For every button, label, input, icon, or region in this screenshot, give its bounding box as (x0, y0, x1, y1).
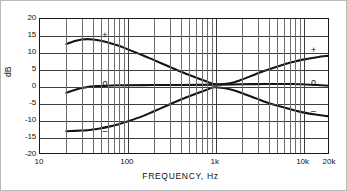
y-axis-tick-label: -15 (2, 133, 36, 141)
curve-annotation-plus-right: + (311, 45, 316, 54)
x-axis-tick-label: 20k (323, 158, 336, 166)
x-axis-tick-label: 1k (210, 158, 218, 166)
x-axis-tick-label: 10 (35, 158, 44, 166)
x-axis-title: FREQUENCY, Hz (1, 171, 346, 181)
y-axis-tick-label: 10 (2, 48, 36, 56)
gridline-vertical-minor (181, 19, 182, 153)
x-axis-tick-label: 10k (296, 158, 309, 166)
gridline-vertical-major (216, 19, 217, 153)
gridline-vertical-major (128, 19, 129, 153)
gridline-vertical-minor (93, 19, 94, 153)
curve-annotation-plus-left: + (102, 31, 107, 40)
x-axis-tick-label: 100 (120, 158, 133, 166)
gridline-vertical-minor (82, 19, 83, 153)
curve-annotation-minus-left: – (102, 127, 107, 136)
y-axis-tick-label: 5 (2, 65, 36, 73)
gridline-vertical-minor (277, 19, 278, 153)
gridline-vertical-minor (170, 19, 171, 153)
y-axis-tick-label: -10 (2, 116, 36, 124)
gridline-vertical-minor (300, 19, 301, 153)
curve-annotation-zero-right: 0 (311, 79, 316, 88)
y-axis-tick-labels: 20151050-5-10-15-20 (1, 18, 36, 154)
x-axis-tick-labels: 101001k10k20k (1, 158, 346, 170)
gridline-vertical-minor (212, 19, 213, 153)
gridline-vertical-minor (196, 19, 197, 153)
y-axis-tick-label: 15 (2, 31, 36, 39)
gridline-vertical-minor (207, 19, 208, 153)
figure: dB 20151050-5-10-15-20 +0–+0– 101001k10k… (1, 1, 346, 190)
y-axis-tick-label: 20 (2, 14, 36, 22)
gridline-vertical-minor (269, 19, 270, 153)
gridline-vertical-minor (66, 19, 67, 153)
gridline-vertical-minor (295, 19, 296, 153)
gridline-vertical-minor (108, 19, 109, 153)
gridline-vertical-minor (114, 19, 115, 153)
gridline-vertical-minor (189, 19, 190, 153)
gridline-vertical-minor (202, 19, 203, 153)
y-axis-tick-label: -5 (2, 99, 36, 107)
gridline-vertical-major (304, 19, 305, 153)
curve-annotation-zero-left: 0 (102, 79, 107, 88)
gridline-vertical-minor (290, 19, 291, 153)
gridline-vertical-minor (242, 19, 243, 153)
gridline-vertical-minor (284, 19, 285, 153)
curve-annotation-minus-right: – (311, 107, 316, 116)
gridline-vertical-minor (154, 19, 155, 153)
plot-area: +0–+0– (39, 18, 329, 154)
gridline-vertical-minor (258, 19, 259, 153)
y-axis-tick-label: -20 (2, 150, 36, 158)
chart-screenshot: dB 20151050-5-10-15-20 +0–+0– 101001k10k… (0, 0, 347, 191)
gridline-vertical-minor (119, 19, 120, 153)
gridline-vertical-minor (124, 19, 125, 153)
y-axis-tick-label: 0 (2, 82, 36, 90)
